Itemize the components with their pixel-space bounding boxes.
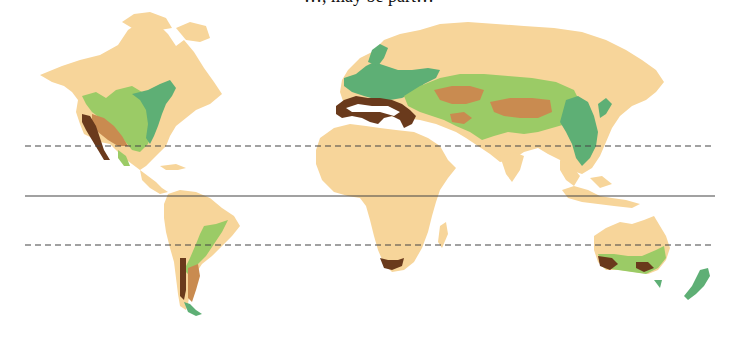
world-map bbox=[0, 0, 738, 337]
north-america bbox=[40, 12, 222, 194]
south-america bbox=[164, 190, 240, 316]
australia bbox=[594, 216, 710, 300]
